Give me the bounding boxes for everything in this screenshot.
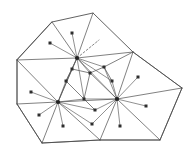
- leaf-marker-left-lower: [38, 114, 41, 117]
- hub-left-spoke-5: [58, 69, 72, 102]
- tri-edge-29: [84, 73, 90, 99]
- hub-right-spoke-3: [90, 73, 117, 99]
- hub-marker-top: [75, 56, 79, 60]
- triangulation-edges-group: [17, 13, 182, 143]
- mesh-diagram-figure: [0, 0, 189, 153]
- tri-edge-18: [58, 99, 117, 102]
- tri-edge-13: [100, 99, 117, 140]
- tri-edge-3: [17, 104, 42, 143]
- hub-marker-left: [56, 100, 60, 104]
- tri-edge-1: [17, 22, 52, 60]
- tri-edge-9: [160, 88, 182, 140]
- hub-right-spoke-9: [117, 99, 146, 106]
- tri-edge-6: [77, 52, 133, 58]
- hub-right-spoke-2: [104, 67, 117, 99]
- node-marker-a: [71, 68, 74, 71]
- hub-left-spoke-8: [58, 102, 92, 124]
- node-marker-b: [89, 72, 92, 75]
- leaf-marker-right-upper: [137, 76, 140, 79]
- node-marker-g: [111, 80, 114, 83]
- hub-marker-right: [115, 97, 119, 101]
- tri-edge-21: [77, 13, 93, 58]
- tri-edge-16: [42, 102, 58, 143]
- tri-edge-4: [42, 140, 100, 143]
- tri-edge-8: [133, 52, 182, 88]
- tri-edge-15: [17, 60, 58, 102]
- node-marker-f: [65, 80, 68, 83]
- leaf-marker-left-upper: [30, 91, 33, 94]
- hub-right-spoke-5: [95, 99, 117, 110]
- tri-edge-7: [17, 58, 77, 60]
- tri-edge-12: [117, 99, 160, 140]
- hub-top-spoke-2: [50, 43, 77, 58]
- leaf-marker-bottom-right: [119, 125, 122, 128]
- leaf-marker-top-spoke: [71, 32, 74, 35]
- node-marker-d: [83, 98, 86, 101]
- mesh-diagram-canvas: [0, 0, 189, 153]
- leaf-marker-right-mid: [145, 105, 148, 108]
- hub-right-spoke-7: [117, 99, 120, 126]
- node-marker-e: [94, 109, 97, 112]
- leaf-marker-upper-left: [49, 42, 52, 45]
- tri-edge-14: [17, 102, 58, 104]
- boundary-polygon: [17, 13, 182, 143]
- boundary-polygon-group: [17, 13, 182, 143]
- tri-edge-17: [58, 102, 100, 140]
- hub-left-spoke-1: [31, 92, 58, 102]
- leaf-marker-bottom-mid: [91, 123, 94, 126]
- hub-left-spoke-7: [58, 102, 95, 110]
- node-marker-c: [103, 66, 106, 69]
- leaf-marker-bottom-left: [62, 125, 65, 128]
- tri-edge-10: [117, 88, 182, 99]
